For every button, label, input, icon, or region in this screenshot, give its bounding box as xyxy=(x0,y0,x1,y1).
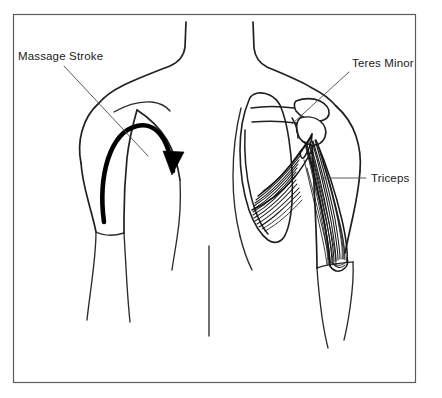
diagram-canvas: Massage Stroke Teres Minor Triceps xyxy=(0,0,442,398)
massage-stroke-label: Massage Stroke xyxy=(18,50,103,62)
teres-minor-label: Teres Minor xyxy=(352,57,414,69)
anatomy-diagram-figure: Massage Stroke Teres Minor Triceps xyxy=(0,0,442,398)
triceps-label: Triceps xyxy=(371,172,409,184)
